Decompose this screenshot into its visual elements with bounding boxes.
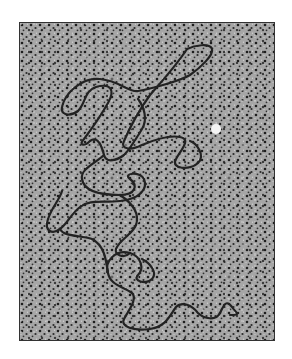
- granular-overlay: [20, 23, 275, 341]
- micrograph-frame: [19, 22, 275, 341]
- micrograph-image: [20, 23, 275, 341]
- white-bead: [211, 124, 221, 134]
